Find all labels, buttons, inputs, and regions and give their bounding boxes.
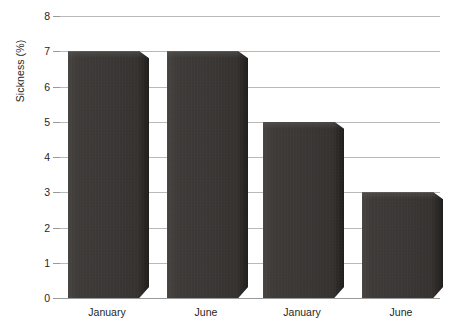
y-tick-dash-8 xyxy=(53,16,60,17)
bar-0 xyxy=(68,51,149,298)
x-axis-label-1: June xyxy=(195,306,218,318)
y-tick-label-7: 7 xyxy=(30,45,50,57)
gridline-8 xyxy=(60,16,440,17)
y-tick-dash-3 xyxy=(53,192,60,193)
y-axis-title: Sickness (%) xyxy=(14,16,28,126)
bar-1-top-face xyxy=(167,51,248,58)
y-tick-dash-2 xyxy=(53,228,60,229)
plot-area xyxy=(60,16,440,298)
y-tick-label-1: 1 xyxy=(30,257,50,269)
x-axis-label-2: January xyxy=(283,306,320,318)
x-axis-baseline xyxy=(60,298,440,299)
bar-2 xyxy=(263,122,344,298)
bar-1-side-face xyxy=(237,51,248,298)
bar-1 xyxy=(167,51,248,298)
bar-3 xyxy=(362,192,443,298)
y-tick-label-2: 2 xyxy=(30,222,50,234)
y-tick-dash-4 xyxy=(53,157,60,158)
bar-2-side-face xyxy=(333,122,344,298)
y-tick-dash-7 xyxy=(53,51,60,52)
y-tick-dash-6 xyxy=(53,87,60,88)
y-tick-dash-5 xyxy=(53,122,60,123)
x-axis-label-3: June xyxy=(390,306,413,318)
y-tick-label-6: 6 xyxy=(30,81,50,93)
bar-3-side-face xyxy=(432,192,443,298)
bar-chart: Sickness (%) 0 1 2 3 4 5 6 7 8 xyxy=(0,0,455,335)
bar-3-top-face xyxy=(362,192,443,199)
y-tick-label-4: 4 xyxy=(30,151,50,163)
bar-0-side-face xyxy=(138,51,149,298)
y-tick-dash-1 xyxy=(53,263,60,264)
x-axis-label-0: January xyxy=(88,306,125,318)
bar-0-top-face xyxy=(68,51,149,58)
bar-2-top-face xyxy=(263,122,344,129)
y-tick-label-5: 5 xyxy=(30,116,50,128)
y-tick-label-0: 0 xyxy=(30,292,50,304)
y-tick-label-3: 3 xyxy=(30,186,50,198)
y-tick-dash-0 xyxy=(53,298,60,299)
y-tick-label-8: 8 xyxy=(30,10,50,22)
